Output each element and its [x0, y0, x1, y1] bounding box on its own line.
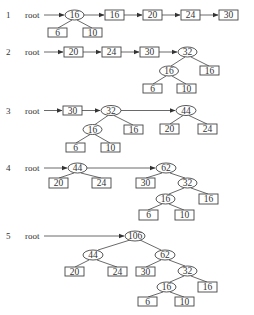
tree-edge — [170, 173, 185, 178]
node-value: 10 — [88, 28, 98, 38]
tree-edge — [98, 240, 130, 250]
node-value: 16 — [162, 282, 172, 292]
tree-edge — [81, 173, 101, 178]
step-number-label: 1 — [6, 10, 11, 20]
leaf-node-10: 10 — [175, 210, 194, 220]
node-value: 44 — [88, 250, 98, 260]
internal-node-44: 44 — [176, 106, 196, 116]
tree-edge — [172, 76, 186, 84]
leaf-node-24: 24 — [181, 10, 200, 20]
tree-edge — [95, 116, 108, 125]
internal-node-32: 32 — [178, 47, 197, 57]
node-value: 16 — [161, 194, 171, 204]
step-number-label: 4 — [6, 163, 11, 173]
leaf-node-16: 16 — [124, 125, 143, 135]
tree-edge — [191, 276, 207, 282]
node-value: 6 — [150, 84, 155, 94]
node-value: 24 — [97, 178, 107, 188]
tree-edge — [191, 57, 209, 66]
node-value: 62 — [160, 250, 170, 260]
internal-node-32: 32 — [178, 266, 197, 276]
leaf-node-10: 10 — [177, 84, 196, 94]
node-value: 24 — [203, 124, 213, 134]
tree-edge — [76, 135, 90, 144]
node-value: 10 — [180, 210, 190, 220]
leaf-node-30: 30 — [136, 178, 155, 188]
leaf-node-30: 30 — [136, 267, 155, 277]
node-value: 6 — [146, 210, 151, 220]
step-number-label: 5 — [6, 231, 11, 241]
leaf-node-16: 16 — [199, 194, 218, 204]
node-value: 6 — [73, 143, 78, 153]
tree-edge — [58, 20, 72, 28]
internal-node-44: 44 — [68, 163, 87, 173]
node-value: 20 — [165, 124, 175, 134]
node-value: 16 — [110, 10, 120, 20]
tree-edge — [170, 116, 183, 125]
node-value: 16 — [88, 125, 98, 135]
leaf-node-6: 6 — [143, 84, 162, 94]
node-value: 24 — [113, 267, 123, 277]
tree-edge — [59, 173, 74, 178]
leaf-node-6: 6 — [48, 28, 67, 38]
internal-node-16: 16 — [157, 282, 176, 292]
tree-edge — [169, 188, 184, 194]
internal-node-16: 16 — [65, 10, 84, 20]
node-value: 10 — [182, 84, 192, 94]
internal-node-16: 16 — [83, 125, 102, 135]
leaf-node-10: 10 — [83, 28, 102, 38]
tree-edge — [170, 276, 184, 282]
tree-edge — [169, 260, 185, 266]
node-value: 20 — [70, 267, 80, 277]
node-value: 16 — [203, 282, 213, 292]
step-3: 3root30324416162024610 — [6, 106, 217, 153]
node-value: 20 — [69, 47, 79, 57]
leaf-node-10: 10 — [101, 143, 120, 153]
node-value: 32 — [183, 266, 193, 276]
leaf-node-6: 6 — [138, 297, 157, 307]
node-value: 106 — [128, 231, 143, 241]
root-label: root — [25, 231, 40, 241]
tree-edge — [95, 135, 110, 144]
tree-edge — [148, 204, 162, 210]
huffman-diagram: 1root16162024306102root2024303216166103r… — [0, 0, 254, 315]
node-value: 32 — [106, 106, 116, 116]
node-value: 30 — [141, 178, 151, 188]
tree-edge — [171, 57, 185, 66]
node-value: 44 — [73, 163, 83, 173]
node-value: 30 — [141, 267, 151, 277]
node-value: 30 — [224, 10, 234, 20]
leaf-node-20: 20 — [64, 47, 83, 57]
leaf-node-6: 6 — [139, 210, 158, 220]
step-1: 1root1616202430610 — [6, 10, 238, 38]
leaf-node-20: 20 — [160, 124, 179, 134]
tree-edge — [77, 20, 92, 28]
node-value: 16 — [164, 66, 174, 76]
internal-node-44: 44 — [83, 250, 103, 260]
node-value: 32 — [183, 178, 193, 188]
node-value: 10 — [106, 143, 116, 153]
leaf-node-16: 16 — [198, 282, 217, 292]
internal-node-16: 16 — [160, 66, 179, 76]
root-label: root — [25, 10, 40, 20]
leaf-node-30: 30 — [219, 10, 238, 20]
node-value: 24 — [107, 47, 117, 57]
leaf-node-30: 30 — [63, 106, 82, 116]
node-value: 6 — [145, 297, 150, 307]
node-value: 62 — [161, 163, 171, 173]
step-2: 2root202430321616610 — [6, 47, 219, 94]
root-label: root — [25, 106, 40, 116]
tree-edge — [148, 292, 163, 297]
node-value: 6 — [55, 28, 60, 38]
tree-edge — [169, 204, 184, 210]
leaf-node-24: 24 — [102, 47, 121, 57]
leaf-node-16: 16 — [105, 10, 124, 20]
node-value: 16 — [129, 125, 139, 135]
node-value: 10 — [180, 297, 190, 307]
step-5: 5root1064462202430321616610 — [6, 231, 217, 307]
node-value: 16 — [204, 194, 214, 204]
internal-node-106: 106 — [125, 231, 145, 241]
leaf-node-24: 24 — [198, 124, 217, 134]
leaf-node-24: 24 — [92, 178, 111, 188]
internal-node-32: 32 — [178, 178, 197, 188]
